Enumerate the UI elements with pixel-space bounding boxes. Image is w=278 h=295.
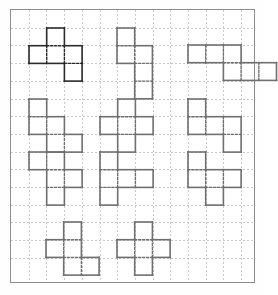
pentomino-shape-4 — [29, 99, 82, 152]
pentomino-shape-2 — [117, 28, 152, 99]
pentomino-shape-7 — [29, 152, 82, 205]
pentomino-shape-5 — [100, 99, 153, 152]
pentomino-shape-6 — [188, 99, 241, 152]
shapes-layer — [11, 10, 254, 282]
pentomino-shape-1 — [29, 28, 82, 81]
pentomino-shape-10 — [46, 222, 99, 275]
pentomino-shape-8 — [100, 152, 153, 205]
pentomino-shape-3 — [188, 45, 265, 80]
graph-paper-frame — [10, 9, 255, 283]
pentomino-shape-11 — [117, 222, 170, 275]
pentomino-shape-9 — [188, 152, 241, 205]
worksheet-page — [0, 0, 265, 295]
